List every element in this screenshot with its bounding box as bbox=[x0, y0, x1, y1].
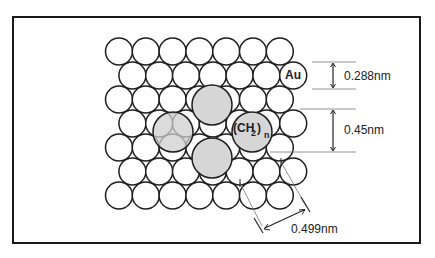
au-atom bbox=[119, 62, 146, 89]
au-atom bbox=[266, 182, 293, 209]
dimension-label-0499: 0.499nm bbox=[291, 222, 338, 236]
au-atom bbox=[213, 182, 240, 209]
au-atom bbox=[106, 134, 133, 161]
au-atom bbox=[253, 158, 280, 185]
au-atom bbox=[186, 38, 213, 65]
au-atom bbox=[240, 86, 267, 113]
au-atom bbox=[106, 38, 133, 65]
au-atom bbox=[159, 86, 186, 113]
au-atom bbox=[280, 158, 307, 185]
au-atom bbox=[159, 38, 186, 65]
au-atom bbox=[226, 62, 253, 89]
au-atom bbox=[106, 182, 133, 209]
dimension-0288: 0.288nm bbox=[312, 62, 391, 89]
au-ch2-lattice-diagram: Au (CH 2 ) n 0.288nm 0.45nm 0.499nm bbox=[0, 0, 435, 258]
au-atom bbox=[266, 86, 293, 113]
ch2-chain-top bbox=[192, 85, 232, 125]
au-atom bbox=[266, 38, 293, 65]
ch2-chain-left bbox=[153, 112, 193, 152]
au-atom bbox=[213, 38, 240, 65]
au-atom bbox=[146, 158, 173, 185]
au-label: Au bbox=[285, 68, 301, 82]
au-atom bbox=[119, 110, 146, 137]
au-atom bbox=[253, 62, 280, 89]
au-atom bbox=[159, 182, 186, 209]
au-atom bbox=[173, 62, 200, 89]
dimension-label-0288: 0.288nm bbox=[344, 69, 391, 83]
au-atom bbox=[280, 110, 307, 137]
ch2-chain-bottom bbox=[192, 138, 232, 178]
svg-text:): ) bbox=[257, 121, 261, 135]
au-atom bbox=[146, 62, 173, 89]
svg-text:2: 2 bbox=[251, 128, 256, 138]
au-atom bbox=[106, 86, 133, 113]
au-atom bbox=[119, 158, 146, 185]
dimension-label-045: 0.45nm bbox=[344, 123, 384, 137]
svg-text:n: n bbox=[264, 130, 270, 140]
au-atom bbox=[240, 38, 267, 65]
au-atom bbox=[132, 182, 159, 209]
au-atom bbox=[132, 38, 159, 65]
au-atom bbox=[132, 86, 159, 113]
au-atom bbox=[240, 182, 267, 209]
au-atom bbox=[186, 182, 213, 209]
